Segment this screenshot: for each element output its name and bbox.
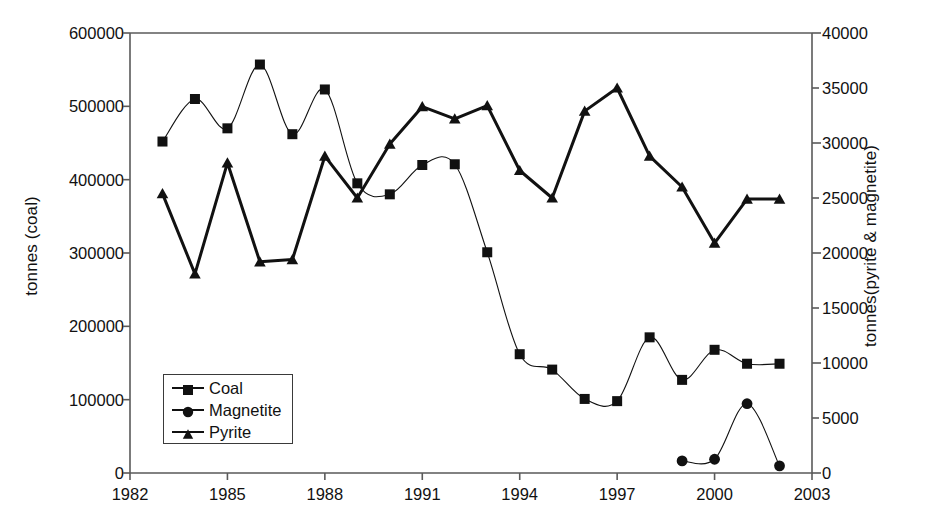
data-point-coal xyxy=(742,359,752,369)
legend-marker-circle-icon xyxy=(171,401,205,419)
data-point-coal xyxy=(612,396,622,406)
legend-marker-triangle-icon xyxy=(171,423,205,441)
legend-item-pyrite[interactable]: Pyrite xyxy=(171,421,251,443)
data-point-pyrite xyxy=(514,165,526,175)
data-point-coal xyxy=(515,349,525,359)
data-point-coal xyxy=(287,129,297,139)
data-point-pyrite xyxy=(644,151,656,161)
data-point-coal xyxy=(775,359,785,369)
legend-marker-square-icon xyxy=(171,379,205,397)
data-point-coal xyxy=(385,189,395,199)
data-point-coal xyxy=(482,247,492,257)
data-point-coal xyxy=(157,137,167,147)
data-point-magnetite xyxy=(774,460,785,471)
data-point-magnetite xyxy=(742,398,753,409)
legend-item-coal[interactable]: Coal xyxy=(171,377,243,399)
data-point-pyrite xyxy=(157,188,169,198)
data-point-coal xyxy=(255,60,265,70)
chart-figure: tonnes (coal) tonnes(pyrite & magnetite)… xyxy=(0,0,932,527)
data-point-coal xyxy=(417,160,427,170)
data-point-pyrite xyxy=(481,100,493,110)
data-point-pyrite xyxy=(611,82,623,92)
legend[interactable]: Coal Magnetite Pyrite xyxy=(163,374,293,444)
data-point-coal xyxy=(677,375,687,385)
data-point-coal xyxy=(645,332,655,342)
data-point-pyrite xyxy=(319,151,331,161)
legend-label-coal: Coal xyxy=(209,379,243,398)
data-point-coal xyxy=(710,345,720,355)
data-point-coal xyxy=(352,178,362,188)
legend-label-pyrite: Pyrite xyxy=(209,423,251,442)
data-point-coal xyxy=(190,94,200,104)
data-point-magnetite xyxy=(709,454,720,465)
plot-area xyxy=(0,0,932,527)
data-point-coal xyxy=(547,365,557,375)
data-point-pyrite xyxy=(416,101,428,111)
data-point-coal xyxy=(222,123,232,133)
data-point-magnetite xyxy=(677,456,688,467)
data-point-coal xyxy=(320,84,330,94)
data-point-coal xyxy=(450,159,460,169)
data-point-coal xyxy=(580,394,590,404)
series-pyrite xyxy=(157,82,786,278)
legend-label-magnetite: Magnetite xyxy=(209,401,281,420)
data-point-pyrite xyxy=(189,268,201,278)
legend-item-magnetite[interactable]: Magnetite xyxy=(171,399,281,421)
data-point-pyrite xyxy=(222,157,234,167)
series-magnetite xyxy=(677,398,785,471)
